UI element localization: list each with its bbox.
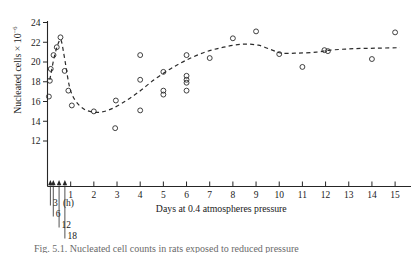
data-point: [138, 108, 143, 113]
x-axis-tick-label: 13: [344, 190, 354, 200]
x-axis-tick-label: 7: [207, 190, 212, 200]
data-point: [138, 53, 143, 58]
hour-marker-arrow: [63, 180, 68, 185]
x-axis-title: Days at 0.4 atmospheres pressure: [156, 203, 288, 214]
data-point: [91, 109, 96, 114]
x-axis-tick-label: 6: [184, 190, 189, 200]
y-axis-tick-label: 20: [31, 57, 41, 67]
data-point: [113, 98, 118, 103]
data-point: [393, 30, 398, 35]
y-axis-tick-label: 24: [31, 18, 41, 28]
x-axis-tick-label: 15: [390, 190, 400, 200]
data-point: [69, 103, 74, 108]
hour-marker-label: 18: [67, 231, 77, 241]
x-axis-tick-label: 2: [91, 190, 96, 200]
hour-marker-label: 12: [62, 220, 72, 230]
data-point: [113, 126, 118, 131]
trend-curve: [50, 39, 400, 112]
data-point: [58, 35, 63, 40]
data-point: [184, 53, 189, 58]
figure-caption: Fig. 5.1. Nucleated cell counts in rats …: [34, 243, 414, 253]
x-axis-tick-label: 11: [298, 190, 307, 200]
data-point: [184, 80, 189, 85]
y-axis-tick-label: 14: [31, 117, 41, 127]
data-point: [184, 88, 189, 93]
data-point: [230, 36, 235, 41]
data-point: [254, 29, 259, 34]
data-point: [48, 66, 53, 71]
data-point: [207, 56, 212, 61]
figure-container: Nucleated cells × 10−6 12141618202224123…: [0, 0, 417, 253]
x-axis-tick-label: 4: [138, 190, 143, 200]
x-axis-tick-label: 12: [321, 190, 331, 200]
x-axis-tick-label: 9: [254, 190, 259, 200]
x-axis-tick-label: 5: [161, 190, 166, 200]
data-point: [138, 77, 143, 82]
hour-marker-arrow: [51, 180, 56, 185]
y-axis-tick-label: 22: [31, 38, 41, 48]
y-axis-tick-label: 16: [31, 97, 41, 107]
y-axis-tick-label: 18: [31, 77, 41, 87]
x-axis-tick-label: 3: [115, 190, 120, 200]
scatter-plot: 121416182022241234567891011121314153(h)6…: [0, 0, 417, 253]
hour-marker-arrow: [57, 180, 62, 185]
x-axis-tick-label: 14: [367, 190, 377, 200]
y-axis-tick-label: 12: [31, 136, 41, 146]
data-point: [369, 57, 374, 62]
hour-marker-label: 6: [56, 209, 61, 219]
x-axis-tick-label: 10: [274, 190, 284, 200]
x-axis-tick-label: 8: [231, 190, 236, 200]
data-point: [300, 64, 305, 69]
